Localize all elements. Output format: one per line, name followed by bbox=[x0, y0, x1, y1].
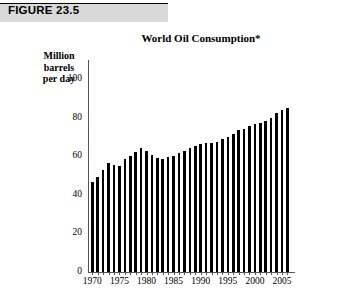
bar bbox=[189, 148, 192, 272]
x-axis-tick-mark bbox=[228, 272, 229, 275]
y-axis-tick-label: 100 bbox=[54, 73, 82, 83]
x-axis-tick-mark bbox=[141, 272, 142, 275]
x-axis-tick-mark bbox=[184, 272, 185, 275]
x-axis-tick-mark bbox=[271, 272, 272, 275]
x-axis-tick-mark bbox=[98, 272, 99, 275]
x-axis-tick-mark bbox=[114, 272, 115, 275]
x-axis-tick-mark bbox=[233, 272, 234, 275]
bar bbox=[281, 110, 284, 272]
bar bbox=[221, 139, 224, 272]
y-axis-tick-label: 20 bbox=[54, 227, 82, 237]
x-axis-tick-mark bbox=[255, 272, 256, 275]
x-axis-tick-mark bbox=[179, 272, 180, 275]
bar bbox=[118, 166, 121, 272]
x-axis-tick-mark bbox=[287, 272, 288, 275]
x-axis-tick-mark bbox=[163, 272, 164, 275]
bar bbox=[275, 113, 278, 272]
bar bbox=[227, 137, 230, 272]
x-axis-tick-mark bbox=[217, 272, 218, 275]
x-axis-tick-mark bbox=[168, 272, 169, 275]
bar bbox=[194, 146, 197, 272]
y-axis-tick-label: 0 bbox=[54, 266, 82, 276]
bar bbox=[232, 134, 235, 272]
bar bbox=[113, 165, 116, 272]
x-axis-tick-mark bbox=[222, 272, 223, 275]
y-axis-tick-label: 60 bbox=[54, 150, 82, 160]
bar bbox=[216, 142, 219, 272]
bar bbox=[270, 118, 273, 272]
x-axis-tick-mark bbox=[260, 272, 261, 275]
y-axis-tick-label: 80 bbox=[54, 112, 82, 122]
bar bbox=[124, 159, 127, 272]
bar bbox=[161, 159, 164, 272]
x-axis-tick-mark bbox=[136, 272, 137, 275]
x-axis-tick-mark bbox=[119, 272, 120, 275]
x-axis-tick-mark bbox=[195, 272, 196, 275]
bar bbox=[248, 126, 251, 272]
bar bbox=[102, 170, 105, 272]
y-axis-title-line-1: Million bbox=[36, 50, 82, 62]
y-axis-title-line-2: barrels bbox=[36, 62, 82, 74]
x-axis-tick-mark bbox=[266, 272, 267, 275]
bar bbox=[107, 163, 110, 272]
x-axis-tick-mark bbox=[92, 272, 93, 275]
chart-title: World Oil Consumption* bbox=[88, 32, 314, 44]
bar bbox=[91, 182, 94, 272]
x-axis-tick-mark bbox=[212, 272, 213, 275]
figure-number-label: FIGURE 23.5 bbox=[8, 4, 79, 16]
bar bbox=[199, 144, 202, 272]
x-axis-tick-mark bbox=[125, 272, 126, 275]
bar bbox=[172, 156, 175, 272]
bar bbox=[151, 155, 154, 272]
bar bbox=[140, 148, 143, 272]
x-axis-tick-mark bbox=[249, 272, 250, 275]
bar bbox=[264, 121, 267, 272]
bar bbox=[243, 129, 246, 272]
bar bbox=[178, 153, 181, 272]
bar bbox=[167, 157, 170, 272]
x-axis-tick-label: 2005 bbox=[265, 276, 299, 286]
x-axis-tick-mark bbox=[244, 272, 245, 275]
bar bbox=[237, 130, 240, 272]
bar bbox=[145, 151, 148, 272]
figure-container: FIGURE 23.5 World Oil Consumption* Milli… bbox=[0, 0, 350, 306]
bar bbox=[259, 123, 262, 272]
x-axis-tick-mark bbox=[147, 272, 148, 275]
bar bbox=[134, 152, 137, 272]
x-axis-tick-mark bbox=[174, 272, 175, 275]
bar bbox=[254, 124, 257, 272]
bar bbox=[156, 158, 159, 272]
bar bbox=[183, 151, 186, 272]
x-axis-tick-mark bbox=[190, 272, 191, 275]
bar bbox=[286, 108, 289, 272]
bar bbox=[129, 156, 132, 272]
bar bbox=[210, 143, 213, 273]
x-axis-tick-mark bbox=[239, 272, 240, 275]
x-axis-tick-mark bbox=[130, 272, 131, 275]
bars-layer bbox=[88, 60, 295, 272]
x-axis-tick-mark bbox=[277, 272, 278, 275]
x-axis-tick-mark bbox=[103, 272, 104, 275]
y-axis-tick-label: 40 bbox=[54, 189, 82, 199]
x-axis-tick-mark bbox=[157, 272, 158, 275]
bar bbox=[96, 177, 99, 272]
x-axis-tick-mark bbox=[109, 272, 110, 275]
x-axis-tick-mark bbox=[206, 272, 207, 275]
bar bbox=[205, 143, 208, 272]
x-axis-tick-mark bbox=[201, 272, 202, 275]
x-axis-tick-mark bbox=[282, 272, 283, 275]
x-axis-tick-mark bbox=[152, 272, 153, 275]
